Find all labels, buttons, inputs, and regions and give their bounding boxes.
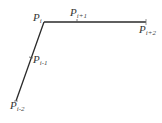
label-p-i-plus-1: Pi+1 xyxy=(69,6,87,20)
label-p-i: Pi xyxy=(32,11,42,25)
label-p-i-plus-2: Pi+2 xyxy=(138,23,156,37)
label-p-i-minus-1: Pi-1 xyxy=(32,53,48,67)
polyline-diagram: Pi Pi+1 Pi+2 Pi-1 Pi-2 xyxy=(0,0,162,123)
